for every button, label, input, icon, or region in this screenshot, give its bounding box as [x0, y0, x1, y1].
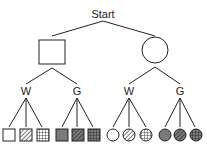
leaf-circle-gray-hatched: [174, 129, 186, 141]
leaf-square-hatched: [20, 129, 32, 141]
leaf-edges: [9, 98, 195, 127]
circle-node: [142, 37, 168, 63]
leaf-square-gray-hatched: [72, 129, 84, 141]
leaf-circle-grid: [140, 129, 152, 141]
leaf-square-white: [3, 129, 15, 141]
label-square-w: W: [21, 85, 32, 97]
leaf-circle-gray-grid: [190, 129, 202, 141]
square-node: [39, 40, 65, 64]
leaf-circle-white: [107, 129, 119, 141]
label-square-g: G: [73, 85, 82, 97]
circle-leaves: [107, 129, 202, 141]
leaf-circle-hatched: [123, 129, 135, 141]
level1-edges: [26, 67, 180, 84]
leaf-square-gray: [56, 129, 68, 141]
start-label: Start: [91, 8, 114, 20]
square-leaves: [3, 129, 100, 141]
leaf-circle-gray: [159, 129, 171, 141]
leaf-square-grid: [37, 129, 49, 141]
label-circle-g: G: [176, 85, 185, 97]
root-edges: [52, 21, 155, 36]
leaf-square-gray-grid: [88, 129, 100, 141]
label-circle-w: W: [124, 85, 135, 97]
